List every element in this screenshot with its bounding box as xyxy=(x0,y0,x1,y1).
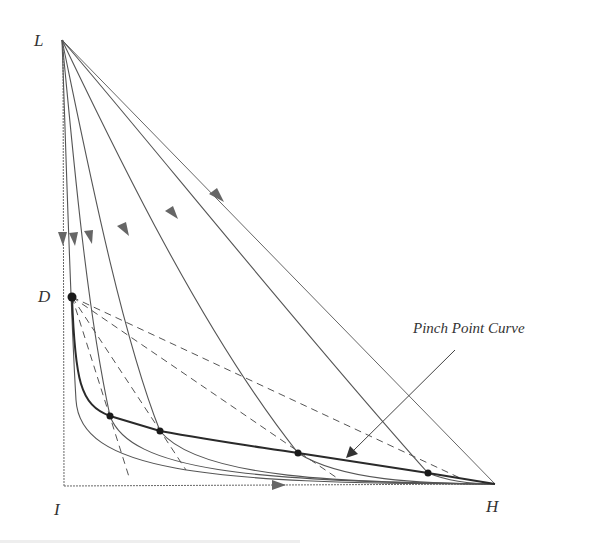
footer-rule xyxy=(0,540,300,543)
arrow-icon xyxy=(84,230,93,244)
label-D: D xyxy=(38,287,50,307)
pinch-points xyxy=(68,293,432,477)
arrow-icon xyxy=(209,188,224,202)
direction-arrows xyxy=(58,188,286,490)
label-H: H xyxy=(486,497,498,517)
pinch-point-diagram xyxy=(0,0,589,546)
arrow-icon xyxy=(58,232,67,246)
arrow-icon xyxy=(117,222,129,236)
label-L: L xyxy=(34,31,43,51)
pinch-point-curve-label: Pinch Point Curve xyxy=(413,320,525,337)
triangle-frame xyxy=(62,40,495,486)
arrow-icon xyxy=(272,480,286,490)
label-I: I xyxy=(54,500,60,520)
arrow-icon xyxy=(165,206,178,219)
arrow-icon xyxy=(69,232,78,246)
